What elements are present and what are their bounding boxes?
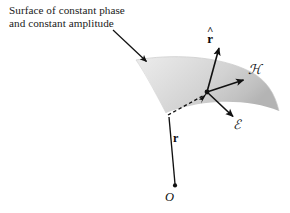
unit-radial-vector-label: ^ r: [207, 27, 213, 44]
wavefront-diagram: Surface of constant phase and constant a…: [0, 0, 290, 213]
unit-radial-base-glyph: r: [207, 34, 213, 44]
magnetic-field-label: ℋ: [248, 61, 261, 78]
position-vector-line: [169, 117, 175, 184]
origin-dot: [173, 183, 177, 187]
origin-label: O: [165, 190, 174, 205]
diagram-canvas: [0, 0, 290, 213]
caption-callout-arrow: [113, 30, 147, 62]
caption-line-1: Surface of constant phase: [9, 4, 125, 17]
caption: Surface of constant phase and constant a…: [9, 4, 125, 29]
caption-line-2: and constant amplitude: [9, 17, 125, 30]
electric-field-label: ℰ: [233, 117, 241, 133]
position-vector-label: r: [173, 131, 178, 146]
